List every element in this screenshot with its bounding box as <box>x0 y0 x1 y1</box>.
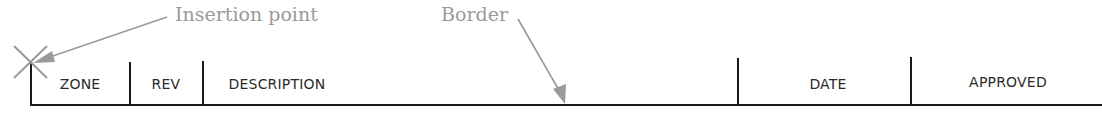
column-header-approved: APPROVED <box>969 75 1047 89</box>
column-header-description: DESCRIPTION <box>229 77 326 91</box>
insertion-point-label: Insertion point <box>175 5 318 24</box>
insertion-point-arrow-icon <box>33 17 167 63</box>
border-label: Border <box>441 5 508 24</box>
revision-block-diagram: Insertion point Border ZONE REV DESCRIPT… <box>0 0 1102 115</box>
column-header-zone: ZONE <box>60 77 101 91</box>
border-arrow-icon <box>518 19 566 104</box>
column-header-date: DATE <box>809 77 846 91</box>
column-header-rev: REV <box>152 77 181 91</box>
diagram-lines <box>0 0 1102 115</box>
